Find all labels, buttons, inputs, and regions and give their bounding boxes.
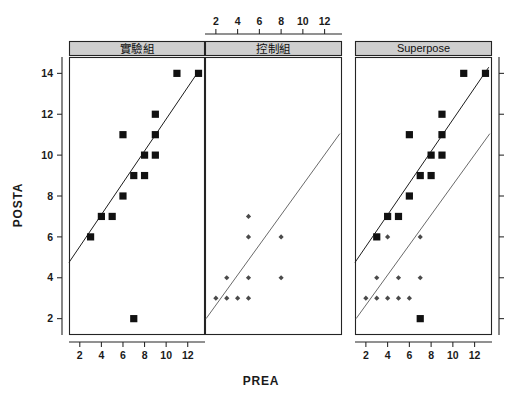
axes-layer: 2468101224681012142468101224681012 [41,15,504,361]
data-point [279,275,284,280]
data-point [152,111,159,118]
data-point [385,234,390,239]
data-point [224,275,229,280]
data-point [195,70,202,77]
axis-panel-superpose: 24681012 [355,57,504,361]
data-point [460,70,467,77]
panel-plot-border [356,58,492,335]
data-point [213,296,218,301]
data-point [119,131,126,138]
x-tick-label: 12 [182,349,194,361]
axis-panel-control: 24681012 [205,15,342,34]
data-point [141,152,148,159]
data-point [418,234,423,239]
x-tick-label: 12 [319,15,331,27]
x-tick-label: 4 [235,15,241,27]
x-tick-label: 6 [406,349,412,361]
panel-plot-border [70,58,205,335]
data-point [224,296,229,301]
panel-panel-superpose: Superpose [355,41,492,335]
data-point [246,234,251,239]
y-axis-title: POSTA [11,183,25,227]
data-point [407,296,412,301]
x-tick-label: 6 [120,349,126,361]
data-point [396,275,401,280]
data-point [173,70,180,77]
data-point [152,152,159,159]
data-point [130,315,137,322]
data-point [235,296,240,301]
data-point [438,111,445,118]
data-point [384,213,391,220]
panel-plot-border [206,58,342,335]
data-point [396,296,401,301]
data-point [152,131,159,138]
regression-line-control-regression [356,134,490,319]
x-tick-label: 10 [297,15,309,27]
data-point [374,296,379,301]
y-tick-label: 4 [47,271,53,283]
x-tick-label: 8 [278,15,284,27]
data-point [130,172,137,179]
x-tick-label: 2 [363,349,369,361]
panel-panel-control: 控制組 [205,41,342,335]
data-point [98,213,105,220]
data-point [373,233,380,240]
data-point [482,70,489,77]
y-tick-label: 14 [41,67,53,79]
data-point [417,315,424,322]
data-point [438,131,445,138]
regression-line-control-regression [206,134,340,319]
data-point [109,213,116,220]
data-point [119,192,126,199]
data-point [406,192,413,199]
chart-canvas: 實驗組控制組Superpose 246810122468101214246810… [0,0,522,407]
trellis-scatter-figure: 實驗組控制組Superpose 246810122468101214246810… [0,0,522,407]
y-tick-label: 6 [47,231,53,243]
data-point [418,275,423,280]
data-point [395,213,402,220]
x-tick-label: 10 [160,349,172,361]
y-tick-label: 2 [47,312,53,324]
x-tick-label: 2 [77,349,83,361]
x-tick-label: 8 [428,349,434,361]
y-tick-label: 12 [41,108,53,120]
x-tick-label: 6 [256,15,262,27]
x-tick-label: 8 [142,349,148,361]
panel-strip-label: 實驗組 [120,42,155,56]
data-point [363,296,368,301]
data-point [246,296,251,301]
y-tick-label: 10 [41,149,53,161]
panel-strip-label: Superpose [397,42,450,54]
x-tick-label: 4 [385,349,391,361]
panels-layer: 實驗組控制組Superpose [69,41,492,335]
x-tick-label: 4 [98,349,104,361]
regression-line-treatment-regression [355,67,489,262]
data-point [141,172,148,179]
x-tick-label: 10 [447,349,459,361]
y-tick-label: 8 [47,190,53,202]
data-point [438,152,445,159]
data-point [279,234,284,239]
data-point [417,172,424,179]
data-point [246,214,251,219]
x-tick-label: 12 [469,349,481,361]
panel-panel-treatment: 實驗組 [69,41,205,335]
x-axis-title: PREA [243,374,280,388]
data-point [428,172,435,179]
panel-strip-label: 控制組 [256,42,291,56]
axis-panel-treatment: 246810122468101214 [41,57,205,361]
data-point [246,275,251,280]
data-point [406,131,413,138]
x-tick-label: 2 [213,15,219,27]
data-point [87,233,94,240]
data-point [428,152,435,159]
data-point [374,275,379,280]
data-point [385,296,390,301]
